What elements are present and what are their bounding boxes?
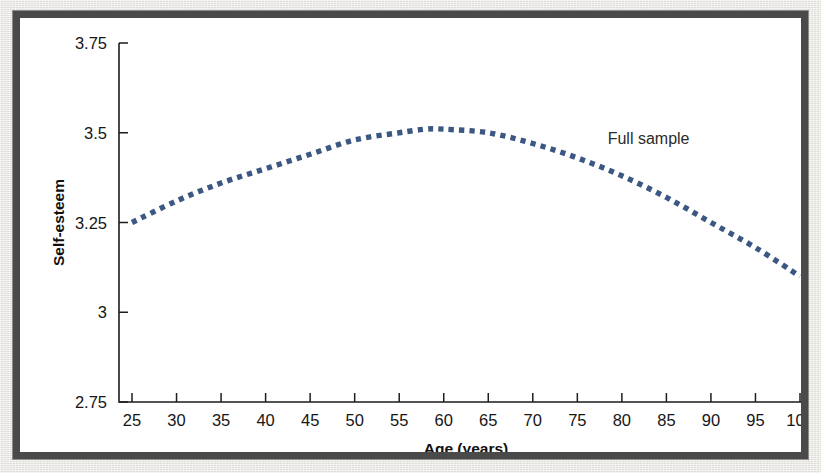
figure-frame: 253035404550556065707580859095100 2.7533… <box>13 11 808 459</box>
x-tick-label: 35 <box>212 411 230 429</box>
x-tick-label: 50 <box>345 411 363 429</box>
self-esteem-by-age-chart: 253035404550556065707580859095100 2.7533… <box>20 18 801 452</box>
x-tick-label: 65 <box>479 411 497 429</box>
y-axis-title: Self-esteem <box>50 179 67 266</box>
data-series <box>132 129 800 277</box>
x-tick-label: 90 <box>702 411 720 429</box>
y-tick-label: 3.75 <box>75 34 107 52</box>
annotations: Full sample <box>608 130 690 147</box>
y-tick-label: 3 <box>98 303 107 321</box>
y-tick-label: 3.25 <box>75 214 107 232</box>
x-tick-label: 80 <box>613 411 631 429</box>
y-tick-labels: 2.7533.253.53.75 <box>75 34 107 411</box>
x-tick-labels: 253035404550556065707580859095100 <box>123 411 801 429</box>
axis-lines <box>119 43 801 402</box>
series-line-full-sample <box>132 129 800 277</box>
x-tick-label: 95 <box>746 411 764 429</box>
series-annotation-full-sample: Full sample <box>608 130 690 147</box>
plot-area: 253035404550556065707580859095100 2.7533… <box>20 18 801 452</box>
x-tick-label: 55 <box>390 411 408 429</box>
y-tick-label: 3.5 <box>84 124 107 142</box>
x-tick-label: 70 <box>524 411 542 429</box>
y-tick-label: 2.75 <box>75 393 107 411</box>
x-tick-label: 85 <box>657 411 675 429</box>
tick-group <box>119 43 800 402</box>
x-axis-title: Age (years) <box>424 440 508 452</box>
x-tick-label: 75 <box>568 411 586 429</box>
x-tick-label: 25 <box>123 411 141 429</box>
x-tick-label: 100 <box>786 411 801 429</box>
x-tick-label: 30 <box>167 411 185 429</box>
x-tick-label: 45 <box>301 411 319 429</box>
x-tick-label: 40 <box>256 411 274 429</box>
x-tick-label: 60 <box>435 411 453 429</box>
